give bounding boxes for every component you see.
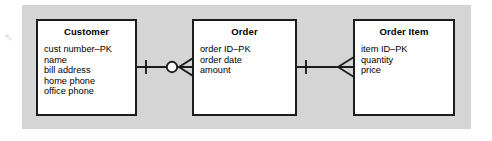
attribute-row: amount <box>200 65 295 76</box>
relationship-order-order-item[interactable] <box>297 52 354 82</box>
attribute-row: quantity <box>361 55 453 66</box>
attribute-row: name <box>44 55 135 66</box>
entity-box-order[interactable]: Order order ID–PK order date amount <box>192 19 297 116</box>
attribute-row: bill address <box>44 65 135 76</box>
entity-attribute-list-customer: cust number–PK name bill address home ph… <box>38 44 135 97</box>
attribute-row: order ID–PK <box>200 44 295 55</box>
entity-attribute-list-order-item: item ID–PK quantity price <box>355 44 453 76</box>
attribute-row: cust number–PK <box>44 44 135 55</box>
attribute-row: home phone <box>44 76 135 87</box>
cardinality-zero-circle <box>167 62 177 72</box>
cardinality-many-crowsfoot <box>179 58 193 76</box>
entity-box-customer[interactable]: Customer cust number–PK name bill addres… <box>36 19 137 116</box>
entity-box-order-item[interactable]: Order Item item ID–PK quantity price <box>353 19 455 116</box>
relationship-customer-order[interactable] <box>137 52 193 82</box>
attribute-row: office phone <box>44 86 135 97</box>
cardinality-many-crowsfoot <box>338 57 354 77</box>
attribute-row: order date <box>200 55 295 66</box>
attribute-row: price <box>361 65 453 76</box>
er-diagram-canvas: ↖ Customer cust number–PK name bill addr… <box>0 0 492 141</box>
scan-artifact-mark: ↖ <box>4 32 15 43</box>
entity-title-customer: Customer <box>38 26 135 37</box>
attribute-row: item ID–PK <box>361 44 453 55</box>
entity-attribute-list-order: order ID–PK order date amount <box>194 44 295 76</box>
entity-title-order: Order <box>194 26 295 37</box>
entity-title-order-item: Order Item <box>355 26 453 37</box>
